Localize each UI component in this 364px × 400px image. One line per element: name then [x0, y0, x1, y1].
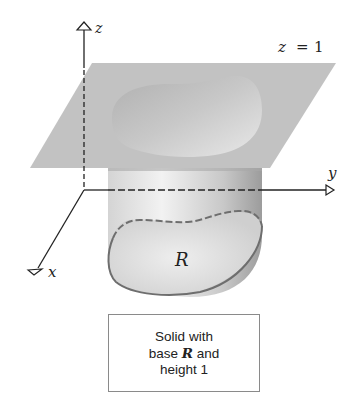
- svg-text:z: z: [277, 38, 286, 56]
- plane-label: z = 1: [277, 38, 324, 56]
- x-axis-arrow-icon: [28, 269, 42, 275]
- x-axis-label: x: [48, 263, 57, 281]
- caption-region-var: R: [182, 345, 193, 361]
- caption-box: Solid with base R and height 1: [108, 314, 260, 392]
- z-axis-arrow-icon: [77, 22, 91, 30]
- caption-line-2-pre: base: [149, 346, 182, 361]
- x-axis: x: [28, 190, 84, 281]
- z-axis: z: [77, 20, 103, 68]
- z-axis-label: z: [94, 20, 103, 36]
- caption-line-3: height 1: [160, 362, 208, 378]
- region-r-label: R: [174, 249, 189, 270]
- svg-text:1: 1: [314, 38, 324, 56]
- caption-line-2-post: and: [193, 346, 219, 361]
- y-axis-label: y: [327, 164, 337, 182]
- svg-text:=: =: [296, 38, 309, 56]
- y-axis-arrow-icon: [326, 185, 334, 195]
- caption-line-2: base R and: [149, 345, 220, 362]
- caption-line-1: Solid with: [155, 329, 213, 345]
